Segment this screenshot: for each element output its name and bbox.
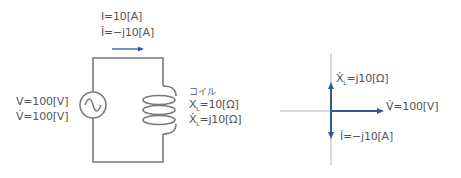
- current-magnitude-label: I=10[A]: [101, 11, 142, 23]
- phasor-reactance-label: ẊL=j10[Ω]: [336, 73, 388, 89]
- coil-label: コイル: [189, 86, 215, 98]
- phasor-axes: [280, 53, 331, 165]
- phasor-reactance-value: =j10[Ω]: [347, 72, 389, 85]
- reactance-phasor-value: =j10[Ω]: [200, 113, 242, 126]
- diagram-canvas: [0, 0, 461, 178]
- reactance-value: =10[Ω]: [200, 98, 239, 111]
- current-phasor-label: İ=−j10[A]: [101, 27, 154, 39]
- reactance-phasor-label: ẊL=j10[Ω]: [189, 114, 241, 130]
- phasor-current-label: İ=−j10[A]: [340, 131, 393, 143]
- voltage-phasor-label: V̇=100[V]: [16, 111, 68, 123]
- phasor-voltage-label: V̇=100[V]: [386, 101, 438, 113]
- ac-source-icon: [80, 92, 106, 118]
- inductor-coil-icon: [143, 86, 176, 134]
- current-direction-arrow-icon: [112, 47, 144, 52]
- voltage-magnitude-label: V=100[V]: [16, 96, 68, 108]
